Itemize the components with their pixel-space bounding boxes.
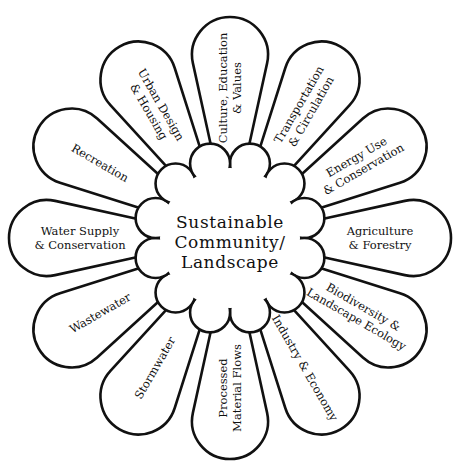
petal-label-line: & Values [230,62,244,114]
petal-label-line: Culture, Education [216,32,230,143]
petal-label-line: Agriculture [346,224,414,238]
petal-label: Water Supply& Conservation [34,224,126,252]
petal-label: Agriculture& Forestry [346,224,414,252]
sustainable-community-flower-diagram: Culture, Education& ValuesTransportation… [0,0,458,470]
center-title-line-3: Landscape [181,252,279,272]
center-hub: Sustainable Community/ Landscape [175,212,286,272]
center-title-line-1: Sustainable [176,212,284,232]
petal-label-line: & Forestry [349,238,412,252]
petal-label-line: & Conservation [34,238,126,252]
petal-label-line: Material Flows [230,344,244,432]
petal-label-line: Processed [216,358,230,418]
petal-label-line: Water Supply [41,224,120,238]
center-title-line-2: Community/ [175,232,286,252]
